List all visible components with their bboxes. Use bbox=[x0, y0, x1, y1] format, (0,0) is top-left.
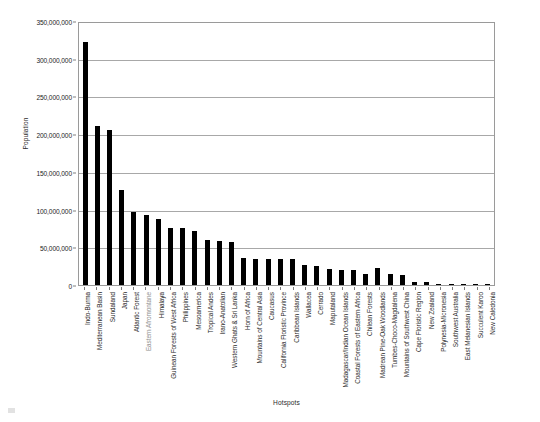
bar[interactable] bbox=[266, 259, 271, 285]
x-axis-slot: Tropical Andes bbox=[201, 287, 213, 395]
bar-slot bbox=[238, 23, 250, 285]
bar[interactable] bbox=[192, 231, 197, 285]
x-axis-slot: New Zealand bbox=[421, 287, 433, 395]
x-axis-tick-mark bbox=[182, 287, 183, 290]
x-axis-slot: California Floristic Province bbox=[274, 287, 286, 395]
x-axis-tick-mark bbox=[231, 287, 232, 290]
y-axis-tick-label: 50,000,000 bbox=[40, 245, 72, 252]
bar[interactable] bbox=[180, 228, 185, 285]
bars-container bbox=[79, 23, 494, 285]
x-axis-tick-mark bbox=[256, 287, 257, 290]
bar-slot bbox=[152, 23, 164, 285]
bar[interactable] bbox=[107, 130, 112, 285]
bar-slot bbox=[360, 23, 372, 285]
y-axis-tick-label: 150,000,000 bbox=[36, 169, 72, 176]
x-axis-tick-mark bbox=[170, 287, 171, 290]
bar[interactable] bbox=[168, 228, 173, 285]
x-axis-slot: Philippines bbox=[176, 287, 188, 395]
bar-slot bbox=[408, 23, 420, 285]
bar[interactable] bbox=[461, 284, 466, 285]
bar-slot bbox=[177, 23, 189, 285]
y-axis-tick-mark bbox=[73, 286, 76, 287]
bar[interactable] bbox=[400, 275, 405, 285]
x-axis-tick-mark bbox=[342, 287, 343, 290]
bar[interactable] bbox=[424, 282, 429, 285]
bar[interactable] bbox=[436, 284, 441, 286]
bar-slot bbox=[347, 23, 359, 285]
bar-slot bbox=[335, 23, 347, 285]
bar[interactable] bbox=[217, 241, 222, 285]
bar-slot bbox=[189, 23, 201, 285]
x-axis-tick-mark bbox=[84, 287, 85, 290]
bar-slot bbox=[311, 23, 323, 285]
x-axis-tick-mark bbox=[244, 287, 245, 290]
bar[interactable] bbox=[302, 265, 307, 285]
x-axis-tick-mark bbox=[379, 287, 380, 290]
population-by-hotspot-bar-chart: Population 350,000,000300,000,000250,000… bbox=[0, 0, 540, 422]
bar-slot bbox=[128, 23, 140, 285]
x-axis-tick-mark bbox=[317, 287, 318, 290]
bar[interactable] bbox=[449, 284, 454, 286]
x-axis-tick-label: New Caledonia bbox=[489, 292, 496, 335]
y-axis-tick-mark bbox=[73, 22, 76, 23]
bar-slot bbox=[396, 23, 408, 285]
x-axis-slot: Atlantic Forest bbox=[127, 287, 139, 395]
x-axis-slot: Horn of Africa bbox=[237, 287, 249, 395]
x-axis-slot: Eastern Afromontane bbox=[139, 287, 151, 395]
x-axis-tick-mark bbox=[305, 287, 306, 290]
bar[interactable] bbox=[253, 259, 258, 285]
x-axis-slot: Succulent Karoo bbox=[471, 287, 483, 395]
bar[interactable] bbox=[156, 219, 161, 285]
bar[interactable] bbox=[375, 268, 380, 285]
x-axis-slot: Himalaya bbox=[152, 287, 164, 395]
bar[interactable] bbox=[229, 242, 234, 285]
x-axis-tick-mark bbox=[329, 287, 330, 290]
bar-slot bbox=[164, 23, 176, 285]
x-axis-slot: Mesoamerica bbox=[188, 287, 200, 395]
x-axis-tick-mark bbox=[366, 287, 367, 290]
bar[interactable] bbox=[95, 126, 100, 285]
bar-slot bbox=[79, 23, 91, 285]
x-axis-tick-mark bbox=[96, 287, 97, 290]
y-axis-tick-label: 250,000,000 bbox=[36, 94, 72, 101]
bar[interactable] bbox=[473, 284, 478, 285]
x-axis-slot: Coastal Forests of Eastern Africa bbox=[348, 287, 360, 395]
bar[interactable] bbox=[339, 270, 344, 285]
x-axis-slot: New Caledonia bbox=[483, 287, 495, 395]
bar-slot bbox=[323, 23, 335, 285]
bar[interactable] bbox=[351, 270, 356, 285]
bar[interactable] bbox=[241, 258, 246, 285]
x-axis-tick-mark bbox=[219, 287, 220, 290]
bar[interactable] bbox=[278, 259, 283, 285]
bar[interactable] bbox=[144, 215, 149, 285]
x-axis-slot: Western Ghats & Sri Lanka bbox=[225, 287, 237, 395]
bar[interactable] bbox=[83, 42, 88, 285]
bar[interactable] bbox=[363, 274, 368, 285]
bar[interactable] bbox=[290, 259, 295, 285]
bar[interactable] bbox=[327, 269, 332, 285]
bar-slot bbox=[262, 23, 274, 285]
bar-slot bbox=[274, 23, 286, 285]
bar[interactable] bbox=[205, 240, 210, 285]
x-axis-slot: Sundaland bbox=[103, 287, 115, 395]
x-axis-slot: Tumbes-Choco-Magdalena bbox=[385, 287, 397, 395]
x-axis-tick-mark bbox=[133, 287, 134, 290]
bar[interactable] bbox=[388, 274, 393, 285]
x-axis-slot: Indo-Burma bbox=[78, 287, 90, 395]
bar[interactable] bbox=[485, 284, 490, 285]
y-axis-tick-mark bbox=[73, 172, 76, 173]
bar-slot bbox=[250, 23, 262, 285]
y-axis-tick-label: 350,000,000 bbox=[36, 19, 72, 26]
bar[interactable] bbox=[412, 282, 417, 285]
y-axis-tick-mark bbox=[73, 210, 76, 211]
bar[interactable] bbox=[119, 190, 124, 285]
x-axis-slot: Chilean Forests bbox=[360, 287, 372, 395]
bar[interactable] bbox=[314, 266, 319, 285]
x-axis-slot: Mountains of Central Asia bbox=[250, 287, 262, 395]
plot-area bbox=[78, 22, 495, 286]
bar-slot bbox=[213, 23, 225, 285]
x-axis-tick-mark bbox=[109, 287, 110, 290]
bar[interactable] bbox=[131, 212, 136, 285]
bar-slot bbox=[421, 23, 433, 285]
bar-slot bbox=[225, 23, 237, 285]
